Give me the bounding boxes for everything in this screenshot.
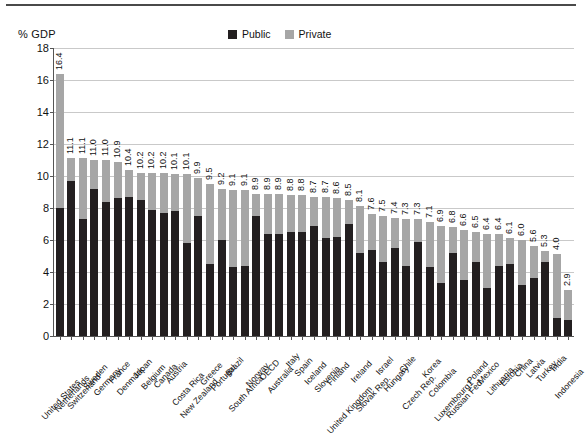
bar-segment-public (333, 237, 341, 336)
bar-group[interactable]: 8.6 (333, 198, 341, 336)
bar-segment-private (229, 190, 237, 267)
bar-group[interactable]: 6.4 (483, 234, 491, 336)
bar-segment-private (345, 200, 353, 224)
bar-group[interactable]: 8.8 (287, 195, 295, 336)
bar-value-label: 5.3 (540, 235, 549, 248)
bar-group[interactable]: 6.9 (437, 226, 445, 336)
bar-group[interactable]: 7.3 (414, 219, 422, 336)
bar-segment-private (264, 194, 272, 234)
bar-group[interactable]: 9.1 (241, 190, 249, 336)
bar-segment-public (460, 280, 468, 336)
bar-group[interactable]: 8.5 (345, 200, 353, 336)
bar-value-label: 8.7 (321, 180, 330, 193)
bar-group[interactable]: 10.1 (183, 174, 191, 336)
bar-group[interactable]: 6.4 (495, 234, 503, 336)
bar-segment-public (414, 242, 422, 336)
bar-segment-public (402, 266, 410, 336)
bar-segment-private (379, 216, 387, 262)
bar-group[interactable]: 11.1 (79, 158, 87, 336)
bar-group[interactable]: 11.1 (67, 158, 75, 336)
bar-group[interactable]: 6.6 (460, 230, 468, 336)
bar-segment-public (241, 266, 249, 336)
bar-group[interactable]: 6.1 (506, 238, 514, 336)
y-tick-label: 6 (43, 234, 49, 246)
bar-value-label: 5.6 (529, 230, 538, 243)
bar-group[interactable]: 7.3 (402, 219, 410, 336)
bar-value-label: 8.9 (251, 177, 260, 190)
bar-value-label: 7.5 (378, 199, 387, 212)
bar-group[interactable]: 9.9 (194, 178, 202, 336)
bar-group[interactable]: 5.6 (530, 246, 538, 336)
bar-group[interactable]: 6.0 (518, 240, 526, 336)
bar-segment-private (391, 218, 399, 248)
bar-segment-private (102, 160, 110, 202)
bar-group[interactable]: 10.2 (148, 173, 156, 336)
bar-segment-private (356, 206, 364, 252)
bar-group[interactable]: 6.8 (449, 227, 457, 336)
bar-segment-public (252, 216, 260, 336)
bar-group[interactable]: 8.1 (356, 206, 364, 336)
bar-group[interactable]: 10.9 (114, 162, 122, 336)
bar-group[interactable]: 8.8 (298, 195, 306, 336)
bar-segment-public (183, 243, 191, 336)
bar-group[interactable]: 10.2 (160, 173, 168, 336)
bar-group[interactable]: 7.1 (426, 222, 434, 336)
bar-segment-public (541, 262, 549, 336)
bar-value-label: 10.1 (182, 153, 191, 171)
bar-segment-private (241, 190, 249, 265)
top-divider-rule (6, 4, 576, 6)
bar-group[interactable]: 16.4 (56, 74, 64, 336)
bar-group[interactable]: 10.4 (125, 170, 133, 336)
bar-value-label: 8.6 (332, 182, 341, 195)
bar-segment-private (79, 158, 87, 219)
y-tick-label: 12 (37, 138, 49, 150)
bar-segment-public (171, 211, 179, 336)
bar-value-label: 6.1 (505, 222, 514, 235)
bar-group[interactable]: 7.4 (391, 218, 399, 336)
bar-group[interactable]: 9.5 (206, 184, 214, 336)
bar-segment-public (506, 264, 514, 336)
bar-group[interactable]: 8.9 (252, 194, 260, 336)
bar-value-label: 8.1 (355, 190, 364, 203)
x-tick-label: Brazil (224, 356, 245, 378)
bar-value-label: 10.2 (159, 151, 168, 169)
bar-segment-private (530, 246, 538, 278)
bar-group[interactable]: 8.7 (310, 197, 318, 336)
x-tick-label: Finland (326, 361, 352, 387)
bar-group[interactable]: 10.1 (171, 174, 179, 336)
bar-group[interactable]: 2.9 (564, 290, 572, 336)
bar-segment-public (229, 267, 237, 336)
x-tick-label: India (549, 354, 568, 373)
bar-segment-private (298, 195, 306, 232)
bar-group[interactable]: 9.2 (218, 189, 226, 336)
bar-group[interactable]: 5.3 (541, 251, 549, 336)
bar-group[interactable]: 9.1 (229, 190, 237, 336)
bar-group[interactable]: 7.5 (379, 216, 387, 336)
bar-group[interactable]: 8.7 (322, 197, 330, 336)
bar-value-label: 9.1 (228, 174, 237, 187)
bar-segment-private (460, 230, 468, 280)
bar-group[interactable]: 4.0 (553, 254, 561, 336)
bar-group[interactable]: 8.9 (275, 194, 283, 336)
bar-group[interactable]: 11.0 (102, 160, 110, 336)
y-tick-mark (50, 336, 54, 337)
legend-item-private: Private (285, 28, 332, 40)
bar-segment-public (148, 210, 156, 336)
bar-value-label: 9.1 (240, 174, 249, 187)
bar-group[interactable]: 10.2 (137, 173, 145, 336)
bar-group[interactable]: 11.0 (90, 160, 98, 336)
y-axis-unit-label: % GDP (18, 28, 56, 40)
bar-segment-public (379, 262, 387, 336)
x-axis-labels: United StatesNetherlandsSwitzerlandSwede… (54, 340, 582, 429)
bar-value-label: 10.9 (113, 140, 122, 158)
bar-segment-public (137, 200, 145, 336)
bar-segment-private (564, 290, 572, 320)
bar-group[interactable]: 6.5 (472, 232, 480, 336)
bar-value-label: 8.8 (297, 179, 306, 192)
bar-segment-public (194, 216, 202, 336)
bar-group[interactable]: 7.6 (368, 214, 376, 336)
bar-segment-private (483, 234, 491, 288)
bar-group[interactable]: 8.9 (264, 194, 272, 336)
bar-segment-public (518, 285, 526, 336)
bar-segment-public (391, 248, 399, 336)
